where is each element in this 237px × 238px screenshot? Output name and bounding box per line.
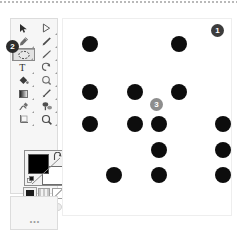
tool-zoom[interactable] <box>35 113 58 126</box>
toolbox-footer: ••• <box>10 196 58 230</box>
canvas-dot <box>215 142 231 158</box>
canvas-dot <box>215 167 231 183</box>
tool-clone[interactable] <box>35 100 58 113</box>
canvas-dot <box>82 84 98 100</box>
tool-move[interactable] <box>12 22 35 35</box>
image-canvas[interactable] <box>62 18 232 216</box>
canvas-dot <box>151 167 167 183</box>
svg-text:T: T <box>19 62 25 73</box>
chevron-down-icon <box>31 58 33 60</box>
canvas-dot <box>151 142 167 158</box>
canvas-dot <box>151 116 167 132</box>
annotation-badge-2: 2 <box>6 40 19 53</box>
annotation-badge-3: 3 <box>150 98 163 111</box>
canvas-dot <box>106 167 122 183</box>
tool-grid: T <box>12 22 58 126</box>
tool-paths[interactable] <box>35 22 58 35</box>
tool-crop[interactable] <box>12 113 35 126</box>
canvas-dot <box>127 84 143 100</box>
screenshot-root: T <box>0 0 237 238</box>
tool-text[interactable]: T <box>12 61 35 74</box>
tool-paintbrush[interactable] <box>35 48 58 61</box>
tool-color-picker[interactable] <box>35 74 58 87</box>
footer-ellipsis[interactable]: ••• <box>11 218 59 225</box>
canvas-dot <box>171 84 187 100</box>
tool-bucket-fill[interactable] <box>12 74 35 87</box>
color-area <box>24 150 66 186</box>
annotation-badge-1: 1 <box>211 24 224 37</box>
tool-rotate[interactable] <box>35 61 58 74</box>
canvas-dot <box>171 36 187 52</box>
reset-colors-icon[interactable] <box>27 176 35 184</box>
tool-gradient[interactable] <box>12 87 35 100</box>
canvas-dot <box>215 116 231 132</box>
canvas-dot <box>82 116 98 132</box>
canvas-dot <box>82 36 98 52</box>
chevron-down-icon <box>32 124 34 126</box>
chevron-down-icon <box>55 124 57 126</box>
foreground-color-swatch[interactable] <box>28 154 49 174</box>
tool-smudge[interactable] <box>12 100 35 113</box>
canvas-dot <box>127 116 143 132</box>
tool-ink[interactable] <box>35 35 58 48</box>
tool-pencil[interactable] <box>35 87 58 100</box>
top-dotted-divider <box>0 1 237 3</box>
